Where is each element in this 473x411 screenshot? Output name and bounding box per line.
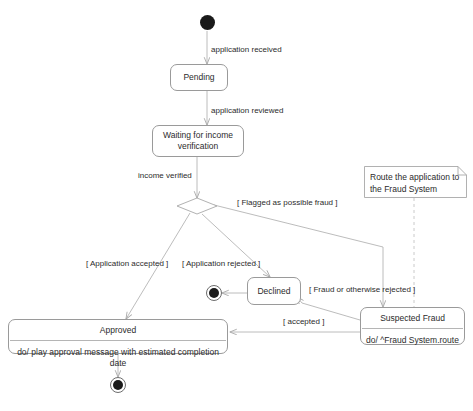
note-text: Route the application to the Fraud Syste…	[370, 171, 461, 195]
initial-state-node	[200, 15, 215, 30]
state-activity-approved: do/ play approval message with estimated…	[9, 341, 227, 375]
note-route-to-fraud-system: Route the application to the Fraud Syste…	[364, 166, 467, 198]
transition-label-income-verified: income verified	[138, 171, 192, 180]
final-state-node-approved	[110, 377, 126, 393]
uml-state-diagram: Pending Waiting for income verification …	[0, 0, 473, 411]
final-state-inner-dot-declined	[209, 288, 219, 298]
transition-label-accepted: [ accepted ]	[283, 317, 324, 326]
final-state-inner-dot-approved	[113, 380, 123, 390]
state-node-pending[interactable]: Pending	[170, 64, 228, 91]
transition-label-application-received: application received	[211, 45, 282, 54]
state-label-approved: Approved	[9, 320, 227, 340]
transition-label-application-reviewed: application reviewed	[211, 106, 284, 115]
state-node-declined[interactable]: Declined	[247, 277, 301, 305]
state-label-suspected-fraud: Suspected Fraud	[361, 308, 464, 328]
transition-label-application-rejected: [ Application rejected ]	[182, 259, 260, 268]
state-activity-suspected-fraud: do/ ^Fraud System.route	[361, 329, 464, 352]
state-label-waiting: Waiting for income verification	[153, 126, 243, 156]
transition-label-application-accepted: [ Application accepted ]	[86, 259, 168, 268]
final-state-node-declined	[206, 285, 222, 301]
state-node-waiting[interactable]: Waiting for income verification	[152, 125, 244, 157]
transition-label-flagged-as-possible-fraud: [ Flagged as possible fraud ]	[237, 198, 338, 207]
decision-diamond	[177, 198, 217, 214]
state-label-declined: Declined	[248, 278, 300, 304]
state-node-suspected-fraud[interactable]: Suspected Fraud do/ ^Fraud System.route	[360, 307, 465, 345]
transition-label-fraud-or-otherwise-rejected: [ Fraud or otherwise rejected ]	[309, 285, 415, 294]
state-label-pending: Pending	[171, 65, 227, 90]
state-node-approved[interactable]: Approved do/ play approval message with …	[8, 319, 228, 354]
